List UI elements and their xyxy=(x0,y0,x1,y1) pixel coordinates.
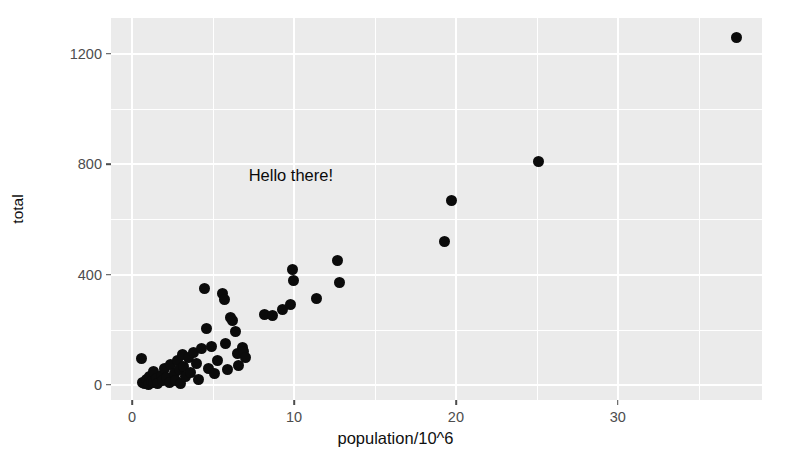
gridline-major-horizontal xyxy=(111,53,762,55)
data-point xyxy=(206,341,217,352)
plot-annotation-text: Hello there! xyxy=(249,167,333,184)
gridline-minor-vertical xyxy=(537,18,538,400)
y-axis-tick-mark xyxy=(106,384,111,386)
x-axis-tick-mark xyxy=(293,400,295,405)
data-point xyxy=(193,374,204,385)
gridline-major-vertical xyxy=(131,18,133,400)
y-axis-tick-label: 400 xyxy=(78,267,102,282)
data-point xyxy=(201,323,212,334)
x-axis-tick-label: 30 xyxy=(610,410,626,425)
gridline-major-vertical xyxy=(617,18,619,400)
x-axis-tick-mark xyxy=(131,400,133,405)
x-axis-title: population/10^6 xyxy=(0,430,791,447)
data-point xyxy=(199,283,210,294)
data-point xyxy=(222,364,233,375)
x-axis-tick-mark xyxy=(617,400,619,405)
y-axis-tick-label: 1200 xyxy=(70,47,102,62)
x-axis-tick-label: 0 xyxy=(128,410,136,425)
gridline-minor-vertical xyxy=(699,18,700,400)
y-axis-tick-mark xyxy=(106,163,111,165)
data-point xyxy=(219,294,230,305)
gridline-major-horizontal xyxy=(111,163,762,165)
data-point xyxy=(334,277,345,288)
y-axis-tick-mark xyxy=(106,274,111,276)
gridline-minor-vertical xyxy=(375,18,376,400)
y-axis-tick-mark xyxy=(106,53,111,55)
data-point xyxy=(230,326,241,337)
data-point xyxy=(439,236,450,247)
gridline-major-vertical xyxy=(293,18,295,400)
data-point xyxy=(136,353,147,364)
data-point xyxy=(287,264,298,275)
gridline-major-horizontal xyxy=(111,274,762,276)
data-point xyxy=(220,338,231,349)
data-point xyxy=(227,315,238,326)
data-point xyxy=(240,352,251,363)
gridline-major-vertical xyxy=(455,18,457,400)
data-point xyxy=(332,255,343,266)
data-point xyxy=(288,275,299,286)
data-point xyxy=(731,32,742,43)
data-point xyxy=(533,156,544,167)
y-axis-tick-label: 0 xyxy=(94,378,102,393)
plot-panel: Hello there! xyxy=(111,18,762,400)
x-axis-tick-mark xyxy=(455,400,457,405)
gridline-minor-horizontal xyxy=(111,109,762,110)
y-axis-tick-label: 800 xyxy=(78,157,102,172)
x-axis-tick-label: 10 xyxy=(286,410,302,425)
scatter-plot-figure: Hello there! 040080012000102030 total po… xyxy=(0,0,791,467)
data-point xyxy=(446,195,457,206)
data-point xyxy=(311,293,322,304)
data-point xyxy=(209,368,220,379)
gridline-major-horizontal xyxy=(111,384,762,386)
gridline-minor-horizontal xyxy=(111,219,762,220)
x-axis-tick-label: 20 xyxy=(448,410,464,425)
y-axis-title: total xyxy=(10,194,26,223)
data-point xyxy=(191,358,202,369)
data-point xyxy=(212,355,223,366)
